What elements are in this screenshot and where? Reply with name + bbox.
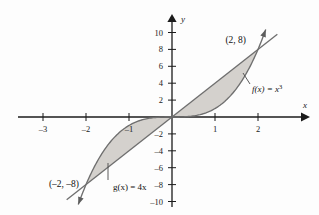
point-label-lower: (–2, –8) — [49, 179, 79, 190]
x-tick-label: –2 — [81, 124, 91, 134]
curve-arrowhead — [260, 30, 265, 38]
point-label-upper: (2, 8) — [225, 35, 246, 46]
curve-arrowhead — [78, 197, 83, 205]
y-tick-label: –6 — [154, 163, 164, 173]
y-tick-label: –10 — [149, 197, 163, 207]
x-tick-label: –3 — [38, 124, 48, 134]
x-axis-label: x — [302, 100, 307, 110]
graph-figure: –3–2–112 108642–2–4–6–8–10 x y (2, 8) (–… — [0, 0, 319, 215]
y-tick-label: 4 — [159, 78, 164, 88]
x-tick-label: 1 — [213, 124, 217, 134]
y-tick-label: –4 — [154, 146, 164, 156]
y-tick-label: –8 — [154, 180, 164, 190]
function-label-f-exponent: 3 — [279, 83, 282, 90]
y-tick-label: 10 — [155, 28, 164, 38]
y-tick-label: 6 — [159, 61, 163, 71]
function-label-f: f(x) = x3 — [252, 83, 282, 95]
function-label-f-text: f(x) = x — [252, 84, 279, 94]
y-tick-label: 2 — [159, 95, 163, 105]
x-tick-label: 2 — [256, 124, 260, 134]
x-axis-arrowhead — [301, 112, 310, 121]
function-label-g: g(x) = 4x — [113, 182, 147, 192]
y-axis-label: y — [180, 14, 185, 24]
y-axis-arrowhead — [167, 14, 176, 22]
y-tick-label: 8 — [159, 44, 163, 54]
coordinate-plane: –3–2–112 108642–2–4–6–8–10 x y (2, 8) (–… — [0, 0, 319, 215]
